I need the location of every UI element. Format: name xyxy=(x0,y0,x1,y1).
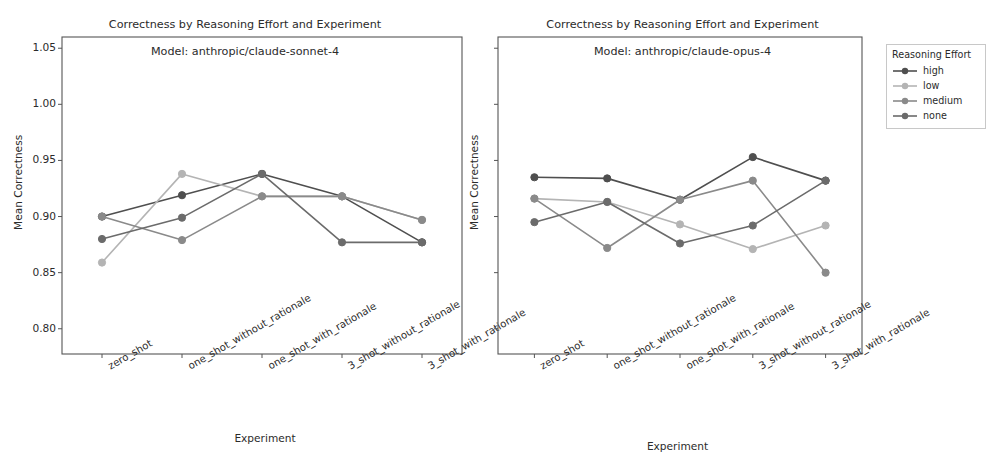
legend-label: high xyxy=(923,65,944,76)
y-tick-label: 0.95 xyxy=(8,153,56,165)
legend-rows: highlowmediumnone xyxy=(892,63,980,123)
y-tick-label: 0.85 xyxy=(8,266,56,278)
legend-marker-icon xyxy=(892,80,918,92)
chart-title-right-line1: Correctness by Reasoning Effort and Expe… xyxy=(485,18,880,32)
legend-title: Reasoning Effort xyxy=(892,49,980,60)
x-axis-label-left: Experiment xyxy=(60,432,470,444)
legend-marker-icon xyxy=(892,95,918,107)
figure-canvas: Correctness by Reasoning Effort and Expe… xyxy=(0,0,989,455)
chart-title-left-line1: Correctness by Reasoning Effort and Expe… xyxy=(30,18,460,32)
legend-label: none xyxy=(923,110,947,121)
y-tick-label: 0.80 xyxy=(8,322,56,334)
y-axis-label-right: Mean Correctness xyxy=(468,135,480,230)
legend: Reasoning Effort highlowmediumnone xyxy=(886,44,986,129)
legend-item-low[interactable]: low xyxy=(892,78,980,93)
x-axis-label-right: Experiment xyxy=(480,440,875,452)
legend-label: medium xyxy=(923,95,962,106)
chart-panel-opus: Correctness by Reasoning Effort and Expe… xyxy=(480,0,880,455)
chart-panel-sonnet: Correctness by Reasoning Effort and Expe… xyxy=(0,0,480,455)
legend-label: low xyxy=(923,80,939,91)
legend-area: Reasoning Effort highlowmediumnone xyxy=(880,0,989,455)
chart-title-right: Correctness by Reasoning Effort and Expe… xyxy=(485,4,880,72)
legend-marker-icon xyxy=(892,65,918,77)
legend-item-high[interactable]: high xyxy=(892,63,980,78)
legend-marker-icon xyxy=(892,110,918,122)
y-tick-label: 1.00 xyxy=(8,97,56,109)
chart-title-left: Correctness by Reasoning Effort and Expe… xyxy=(30,4,460,72)
legend-item-none[interactable]: none xyxy=(892,108,980,123)
y-tick-label: 1.05 xyxy=(8,41,56,53)
y-tick-label: 0.90 xyxy=(8,210,56,222)
legend-item-medium[interactable]: medium xyxy=(892,93,980,108)
chart-title-right-line2: Model: anthropic/claude-opus-4 xyxy=(485,45,880,59)
chart-title-left-line2: Model: anthropic/claude-sonnet-4 xyxy=(30,45,460,59)
